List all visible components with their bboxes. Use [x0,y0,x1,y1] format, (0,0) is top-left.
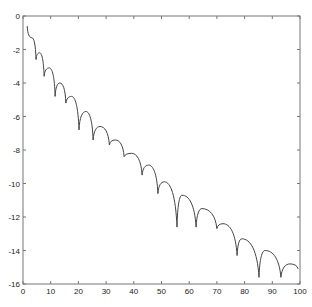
x-tick-label: 20 [74,287,83,296]
x-tick-label: 60 [185,287,194,296]
y-tick-label: -6 [13,113,21,122]
y-tick-label: -8 [13,146,21,155]
x-tick-label: 10 [46,287,55,296]
x-tick-label: 80 [240,287,249,296]
x-tick-label: 50 [157,287,166,296]
x-tick-label: 70 [212,287,221,296]
x-tick-label: 40 [129,287,138,296]
y-tick-label: 0 [16,12,21,21]
y-tick-label: -12 [8,213,20,222]
y-tick-label: -4 [13,79,21,88]
y-tick-label: -2 [13,46,21,55]
plot-background [0,0,312,307]
y-tick-label: -10 [8,180,20,189]
line-chart: 0102030405060708090100 0-2-4-6-8-10-12-1… [0,0,312,307]
y-tick-label: -16 [8,280,20,289]
x-tick-label: 30 [102,287,111,296]
x-tick-label: 90 [268,287,277,296]
x-tick-label: 100 [293,287,307,296]
x-tick-label: 0 [21,287,26,296]
y-tick-label: -14 [8,247,20,256]
